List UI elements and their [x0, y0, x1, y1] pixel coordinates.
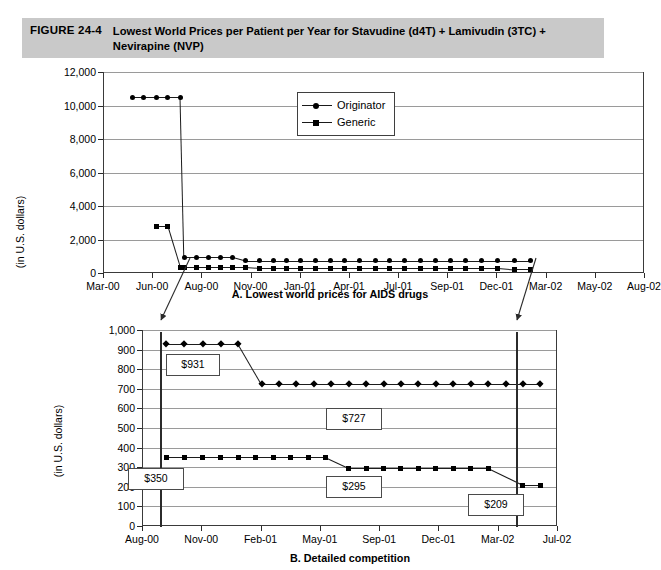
data-point-marker [164, 455, 169, 460]
y-tick-mark [137, 408, 142, 409]
x-tick-mark [152, 273, 153, 278]
data-point-marker [284, 266, 289, 271]
data-point-marker [433, 466, 438, 471]
gridline [143, 389, 556, 390]
x-tick-label: May-02 [577, 280, 612, 292]
x-tick-label: Mar-02 [529, 280, 562, 292]
x-tick-mark [398, 273, 399, 278]
y-tick-label: 2,000 [41, 234, 96, 246]
data-point-marker [528, 267, 533, 272]
data-point-marker [402, 266, 407, 271]
gridline [104, 173, 643, 174]
data-point-marker [323, 455, 328, 460]
data-point-marker [520, 483, 525, 488]
y-tick-label: 0 [80, 520, 135, 532]
y-tick-mark [137, 350, 142, 351]
data-point-marker [463, 266, 468, 271]
data-label-295: $295 [326, 476, 382, 498]
x-tick-label: Aug-00 [184, 280, 218, 292]
data-point-marker [200, 455, 205, 460]
y-tick-mark [137, 506, 142, 507]
data-point-marker [373, 258, 378, 263]
x-tick-mark [447, 273, 448, 278]
y-tick-mark [98, 206, 103, 207]
data-point-marker [451, 466, 456, 471]
y-tick-label: 12,000 [41, 66, 96, 78]
y-tick-mark [98, 72, 103, 73]
y-tick-mark [98, 240, 103, 241]
data-point-marker [230, 265, 235, 270]
data-point-marker [538, 483, 543, 488]
y-tick-label: 8,000 [41, 133, 96, 145]
x-tick-label: Jul-02 [543, 533, 572, 545]
data-point-marker [387, 266, 392, 271]
data-point-marker [398, 466, 403, 471]
chart-panel-a: (in U.S. dollars) 02,0004,0006,0008,0001… [0, 66, 651, 301]
y-tick-label: 900 [80, 344, 135, 356]
y-tick-mark [98, 173, 103, 174]
data-point-marker [418, 266, 423, 271]
data-point-marker [182, 455, 187, 460]
x-tick-mark [438, 526, 439, 531]
data-point-marker [479, 266, 484, 271]
x-tick-mark [379, 526, 380, 531]
chart-panel-b: (in U.S. dollars) 0100200300400500600700… [0, 320, 651, 570]
x-tick-mark [498, 526, 499, 531]
data-point-marker [357, 266, 362, 271]
data-point-marker [165, 224, 170, 229]
x-tick-mark [142, 526, 143, 531]
data-label-727: $727 [326, 408, 382, 430]
x-tick-label: Dec-01 [421, 533, 455, 545]
data-point-marker [468, 466, 473, 471]
data-point-marker [194, 265, 199, 270]
data-point-marker [271, 266, 276, 271]
x-tick-label: Feb-01 [244, 533, 277, 545]
x-tick-mark [201, 273, 202, 278]
figure-caption: Lowest World Prices per Patient per Year… [102, 18, 604, 53]
y-tick-label: 0 [41, 267, 96, 279]
data-point-marker [182, 255, 187, 260]
y-tick-label: 800 [80, 363, 135, 375]
data-point-marker [182, 265, 187, 270]
data-point-marker [306, 455, 311, 460]
y-tick-mark [98, 139, 103, 140]
legend-item-generic: Generic [302, 114, 385, 131]
data-point-marker [271, 455, 276, 460]
legend-item-originator: Originator [302, 97, 385, 114]
figure-number: FIGURE 24-4 [22, 18, 102, 36]
data-point-marker [194, 255, 199, 260]
data-point-marker [218, 455, 223, 460]
y-tick-label: 100 [80, 500, 135, 512]
data-point-marker [512, 258, 517, 263]
y-tick-label: 400 [80, 442, 135, 454]
data-point-marker [381, 466, 386, 471]
data-point-marker [257, 266, 262, 271]
y-tick-mark [98, 106, 103, 107]
legend-label-generic: Generic [337, 117, 376, 128]
data-point-marker [342, 266, 347, 271]
data-label-209: $209 [468, 494, 524, 516]
x-tick-label: Aug-02 [627, 280, 661, 292]
y-tick-label: 1,000 [80, 324, 135, 336]
data-point-marker [218, 265, 223, 270]
data-point-marker [416, 466, 421, 471]
x-tick-label: Nov-00 [184, 533, 218, 545]
panel-b-left-reference-bar [160, 332, 162, 527]
y-tick-label: 500 [80, 422, 135, 434]
data-point-marker [130, 95, 135, 100]
x-tick-mark [320, 526, 321, 531]
y-tick-label: 4,000 [41, 200, 96, 212]
y-tick-mark [137, 448, 142, 449]
y-tick-label: 600 [80, 402, 135, 414]
x-tick-label: Aug-00 [125, 533, 159, 545]
data-point-marker [298, 266, 303, 271]
data-point-marker [141, 95, 146, 100]
y-tick-label: 6,000 [41, 167, 96, 179]
data-point-marker [448, 266, 453, 271]
x-tick-mark [557, 526, 558, 531]
x-tick-mark [261, 526, 262, 531]
x-tick-label: May-01 [302, 533, 337, 545]
gridline [104, 206, 643, 207]
x-tick-label: Mar-00 [86, 280, 119, 292]
gridline [143, 350, 556, 351]
